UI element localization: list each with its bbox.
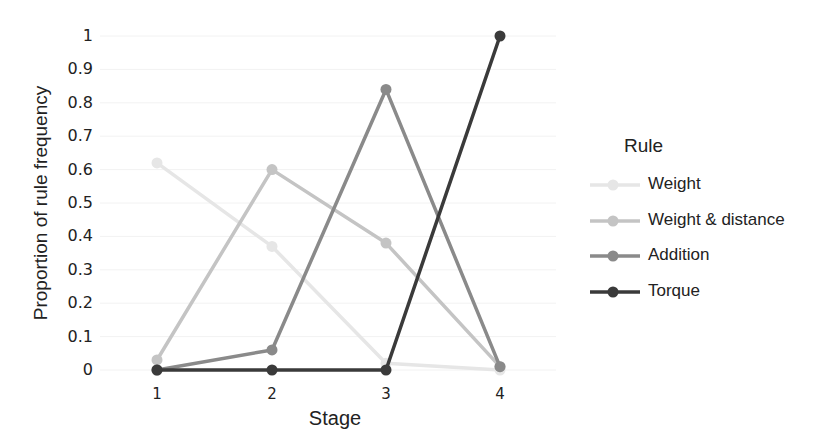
legend-swatch-icon bbox=[588, 209, 642, 233]
legend-item-addition: Addition bbox=[588, 244, 828, 268]
x-tick-label: 3 bbox=[371, 385, 401, 403]
y-tick-label: 0.2 bbox=[45, 293, 93, 312]
legend-item-weight: Weight bbox=[588, 173, 828, 197]
y-tick-label: 0.4 bbox=[45, 226, 93, 245]
series-weight bbox=[152, 157, 506, 375]
legend-swatch-icon bbox=[588, 244, 642, 268]
data-point-marker bbox=[495, 31, 506, 42]
data-point-marker bbox=[495, 361, 506, 372]
x-tick-label: 1 bbox=[142, 385, 172, 403]
series-weight-distance bbox=[152, 164, 506, 372]
x-axis-label: Stage bbox=[280, 407, 390, 430]
legend-item-torque: Torque bbox=[588, 280, 828, 304]
legend-label: Addition bbox=[648, 245, 709, 265]
data-point-marker bbox=[152, 354, 163, 365]
series-line bbox=[157, 89, 500, 370]
y-tick-label: 0.3 bbox=[45, 260, 93, 279]
legend-swatch-icon bbox=[588, 280, 642, 304]
y-axis-label: Proportion of rule frequency bbox=[30, 86, 52, 320]
series-line bbox=[157, 163, 500, 370]
y-tick-label: 0.5 bbox=[45, 193, 93, 212]
data-point-marker bbox=[381, 238, 392, 249]
legend-label: Torque bbox=[648, 281, 700, 301]
data-point-marker bbox=[381, 365, 392, 376]
gridlines bbox=[100, 36, 556, 370]
series-addition bbox=[152, 84, 506, 376]
y-tick-label: 0.6 bbox=[45, 160, 93, 179]
data-point-marker bbox=[381, 84, 392, 95]
data-point-marker bbox=[267, 365, 278, 376]
legend-label: Weight bbox=[648, 174, 701, 194]
legend-label: Weight & distance bbox=[648, 210, 785, 230]
legend-item-weight-distance: Weight & distance bbox=[588, 209, 828, 233]
data-point-marker bbox=[152, 365, 163, 376]
data-point-marker bbox=[267, 344, 278, 355]
data-point-marker bbox=[152, 157, 163, 168]
data-point-marker bbox=[267, 241, 278, 252]
y-tick-label: 0 bbox=[45, 360, 93, 379]
y-tick-label: 0.9 bbox=[45, 59, 93, 78]
legend-swatch-icon bbox=[588, 173, 642, 197]
y-tick-label: 0.1 bbox=[45, 327, 93, 346]
legend-title: Rule bbox=[624, 135, 663, 157]
x-tick-label: 2 bbox=[257, 385, 287, 403]
y-tick-label: 0.7 bbox=[45, 126, 93, 145]
y-tick-label: 0.8 bbox=[45, 93, 93, 112]
data-point-marker bbox=[267, 164, 278, 175]
x-tick-label: 4 bbox=[485, 385, 515, 403]
y-tick-label: 1 bbox=[45, 26, 93, 45]
